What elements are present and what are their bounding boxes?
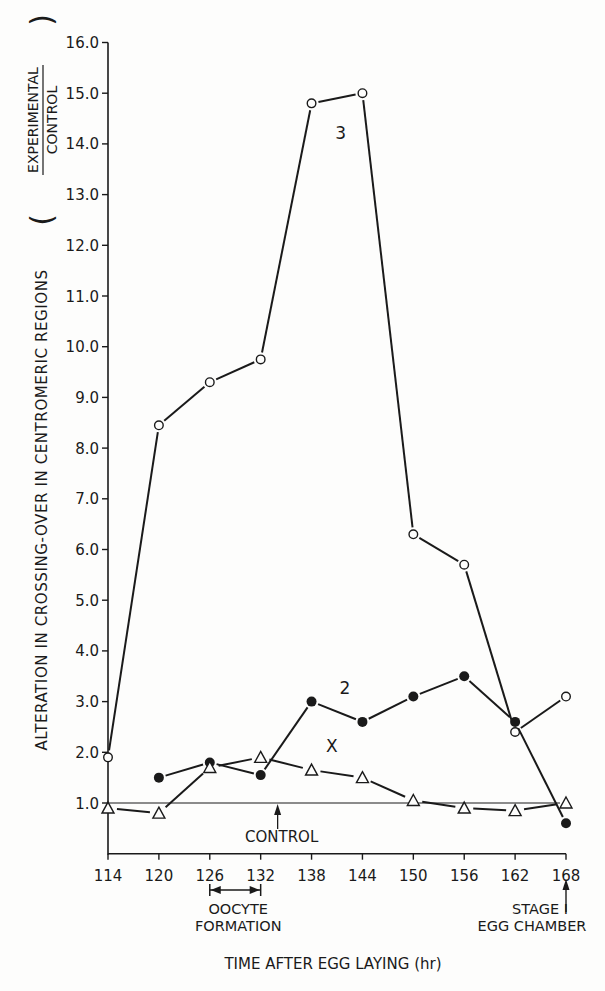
stage-label: EGG CHAMBER <box>478 918 587 934</box>
y-tick-label: 3.0 <box>75 693 99 711</box>
y-tick-label: 1.0 <box>75 795 99 813</box>
x-tick-label: 114 <box>94 867 123 885</box>
series-label-x: X <box>326 736 338 756</box>
series-segment <box>262 110 310 352</box>
stage-label: STAGE I <box>512 901 568 917</box>
x-tick-label: 156 <box>450 867 479 885</box>
series-segment <box>318 704 356 719</box>
open-circle-marker <box>358 89 367 98</box>
open-triangle-marker <box>458 802 470 813</box>
series-segment <box>521 701 560 728</box>
paren-right: ) <box>24 14 59 26</box>
series-segment <box>466 571 513 725</box>
x-tick-label: 138 <box>297 867 326 885</box>
y-tick-labels: 1.02.03.04.05.06.07.08.09.010.011.012.01… <box>66 34 108 813</box>
x-tick-label: 150 <box>399 867 428 885</box>
open-triangle-marker <box>407 794 419 805</box>
y-tick-label: 7.0 <box>75 490 99 508</box>
fraction-denominator: CONTROL <box>44 86 60 155</box>
y-tick-label: 9.0 <box>75 389 99 407</box>
series-segment <box>269 760 302 768</box>
arrowhead-left-icon <box>211 886 221 894</box>
series-segment <box>318 95 355 102</box>
x-tick-label: 162 <box>501 867 530 885</box>
open-circle-marker <box>104 753 113 762</box>
open-circle-marker <box>307 99 316 108</box>
fraction-numerator: EXPERIMENTAL <box>25 67 41 173</box>
x-tick-label: 126 <box>195 867 224 885</box>
series-segment <box>117 809 150 812</box>
open-triangle-marker <box>306 764 318 775</box>
y-tick-label: 5.0 <box>75 592 99 610</box>
y-axis-label: ALTERATION IN CROSSING-OVER IN CENTROMER… <box>24 14 60 750</box>
series-label-3: 3 <box>335 123 346 143</box>
series-segment <box>369 700 407 719</box>
control-label: CONTROL <box>245 828 319 846</box>
open-circle-marker <box>155 421 164 430</box>
x-tick-label: 144 <box>348 867 377 885</box>
paren-left: ( <box>24 214 59 226</box>
x-tick-labels: 114120126132138144150156162168 <box>94 854 581 885</box>
series-segment <box>420 679 458 694</box>
series-group <box>102 89 572 828</box>
line-chart: 1.02.03.04.05.06.07.08.09.010.011.012.01… <box>0 0 605 991</box>
filled-circle-marker <box>357 717 367 727</box>
series-3 <box>104 89 571 762</box>
x-tick-label: 132 <box>246 867 275 885</box>
y-tick-label: 12.0 <box>66 237 99 255</box>
x-tick-label: 120 <box>145 867 174 885</box>
series-segment <box>219 759 252 766</box>
open-circle-marker <box>460 560 469 569</box>
series-segment <box>320 771 353 776</box>
y-tick-label: 8.0 <box>75 440 99 458</box>
series-2 <box>154 671 571 828</box>
open-circle-marker <box>409 530 418 539</box>
y-tick-label: 13.0 <box>66 186 99 204</box>
y-tick-label: 15.0 <box>66 85 99 103</box>
open-circle-marker <box>205 378 214 387</box>
series-segment <box>473 809 506 811</box>
filled-circle-marker <box>256 770 266 780</box>
series-segment <box>363 100 412 527</box>
annotations: OOCYTEFORMATIONSTAGE IEGG CHAMBER <box>195 879 586 934</box>
y-tick-label: 14.0 <box>66 135 99 153</box>
series-segment <box>524 804 557 809</box>
series-labels: 32X <box>326 123 350 756</box>
filled-circle-marker <box>561 818 571 828</box>
x-axis-label: TIME AFTER EGG LAYING (hr) <box>223 955 441 973</box>
y-label-group: ALTERATION IN CROSSING-OVER IN CENTROMER… <box>24 14 60 750</box>
open-triangle-marker <box>509 805 521 816</box>
axes <box>108 43 566 855</box>
series-segment <box>166 764 203 775</box>
series-label-2: 2 <box>340 678 351 698</box>
open-circle-marker <box>562 692 571 701</box>
series-segment <box>469 681 509 717</box>
arrowhead-right-icon <box>250 886 260 894</box>
series-segment <box>109 432 158 750</box>
oocyte-formation-label: FORMATION <box>195 918 282 934</box>
series-x <box>102 751 572 818</box>
series-segment <box>164 387 204 421</box>
open-circle-marker <box>256 355 265 364</box>
y-tick-label: 2.0 <box>75 744 99 762</box>
series-segment <box>166 774 203 808</box>
filled-circle-marker <box>408 692 418 702</box>
filled-circle-marker <box>154 773 164 783</box>
series-segment <box>216 362 254 379</box>
y-tick-label: 6.0 <box>75 541 99 559</box>
open-triangle-marker <box>255 751 267 762</box>
open-triangle-marker <box>560 797 572 808</box>
y-tick-label: 16.0 <box>66 34 99 52</box>
y-axis-title: ALTERATION IN CROSSING-OVER IN CENTROMER… <box>33 269 51 750</box>
open-triangle-marker <box>153 807 165 818</box>
series-segment <box>371 781 405 796</box>
series-segment <box>419 538 458 561</box>
control-arrow-icon <box>274 804 281 815</box>
open-triangle-marker <box>102 802 114 813</box>
filled-circle-marker <box>459 671 469 681</box>
oocyte-formation-label: OOCYTE <box>208 901 268 917</box>
y-tick-label: 11.0 <box>66 288 99 306</box>
open-triangle-marker <box>356 772 368 783</box>
filled-circle-marker <box>510 717 520 727</box>
y-tick-label: 10.0 <box>66 338 99 356</box>
